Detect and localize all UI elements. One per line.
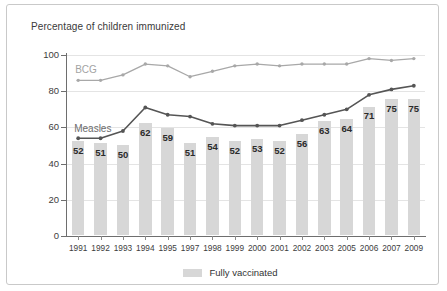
bar	[363, 107, 376, 236]
y-tick-label: 0	[13, 230, 59, 241]
x-tick-mark	[145, 236, 146, 240]
bar-value-label: 50	[112, 149, 134, 160]
y-tick-label: 20	[13, 194, 59, 205]
bar	[139, 123, 152, 235]
x-tick-mark	[391, 236, 392, 240]
x-tick-mark	[101, 236, 102, 240]
bar-value-label: 59	[157, 132, 179, 143]
bar-value-label: 54	[201, 141, 223, 152]
x-tick-label: 2003	[313, 243, 335, 253]
legend-label-fully-vaccinated: Fully vaccinated	[209, 267, 277, 278]
y-tick-label: 80	[13, 85, 59, 96]
x-tick-label: 1995	[157, 243, 179, 253]
y-tick-mark	[61, 127, 66, 128]
x-axis-line	[66, 236, 426, 237]
y-tick-label: 100	[13, 49, 59, 60]
chart-legend: Fully vaccinated	[7, 267, 447, 278]
series-label-measles: Measles	[74, 123, 111, 134]
bar-value-label: 63	[313, 125, 335, 136]
x-tick-label: 2005	[336, 243, 358, 253]
x-tick-mark	[257, 236, 258, 240]
bar-value-label: 52	[67, 145, 89, 156]
bar-value-label: 71	[358, 110, 380, 121]
y-tick-label: 60	[13, 121, 59, 132]
bar	[340, 119, 353, 235]
x-tick-label: 1992	[89, 243, 111, 253]
bar	[385, 99, 398, 235]
bar	[408, 99, 421, 235]
y-tick-mark	[61, 164, 66, 165]
x-tick-mark	[280, 236, 281, 240]
bar-value-label: 62	[134, 127, 156, 138]
gridline	[67, 91, 425, 92]
legend-swatch-fully-vaccinated	[183, 269, 202, 277]
x-tick-label: 1999	[224, 243, 246, 253]
x-tick-label: 2007	[380, 243, 402, 253]
x-tick-label: 1998	[201, 243, 223, 253]
bar-value-label: 52	[224, 145, 246, 156]
y-tick-mark	[61, 55, 66, 56]
bar	[161, 128, 174, 235]
bar-value-label: 75	[380, 103, 402, 114]
x-tick-mark	[369, 236, 370, 240]
bar-value-label: 64	[336, 123, 358, 134]
y-tick-mark	[61, 200, 66, 201]
x-tick-label: 2009	[403, 243, 425, 253]
x-tick-mark	[324, 236, 325, 240]
x-tick-mark	[212, 236, 213, 240]
chart-frame: Percentage of children immunized 0204060…	[6, 4, 439, 285]
x-tick-label: 2001	[268, 243, 290, 253]
x-tick-label: 2002	[291, 243, 313, 253]
x-tick-mark	[235, 236, 236, 240]
x-tick-label: 2006	[358, 243, 380, 253]
x-tick-label: 1994	[134, 243, 156, 253]
y-tick-mark	[61, 91, 66, 92]
x-tick-mark	[347, 236, 348, 240]
bar-value-label: 51	[89, 147, 111, 158]
bar-value-label: 53	[246, 143, 268, 154]
series-label-bcg: BCG	[75, 64, 97, 75]
x-tick-mark	[78, 236, 79, 240]
y-axis-labels: 020406080100	[7, 5, 59, 291]
x-tick-mark	[414, 236, 415, 240]
bar-value-label: 75	[403, 103, 425, 114]
bar-value-label: 52	[268, 145, 290, 156]
x-tick-mark	[123, 236, 124, 240]
x-tick-mark	[302, 236, 303, 240]
bar-value-label: 51	[179, 147, 201, 158]
gridline	[67, 55, 425, 56]
x-tick-mark	[168, 236, 169, 240]
x-tick-label: 2000	[246, 243, 268, 253]
x-tick-mark	[190, 236, 191, 240]
y-tick-mark	[61, 236, 66, 237]
x-tick-label: 1993	[112, 243, 134, 253]
x-tick-label: 1997	[179, 243, 201, 253]
x-tick-label: 1991	[67, 243, 89, 253]
y-tick-label: 40	[13, 158, 59, 169]
bar	[318, 121, 331, 235]
bar-value-label: 56	[291, 138, 313, 149]
bar	[296, 134, 309, 235]
